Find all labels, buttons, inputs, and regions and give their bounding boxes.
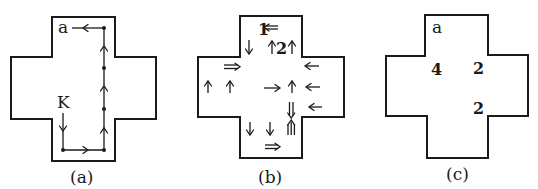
value-4: 4: [431, 60, 442, 79]
caption-c: (c): [446, 164, 469, 184]
node-dot: [61, 148, 65, 152]
cross-outline-a: [11, 17, 156, 161]
left-arrow: [305, 63, 319, 70]
down-arrow: [246, 40, 253, 54]
panel-a: K a (a): [11, 17, 156, 187]
triple-up-arrow: [288, 120, 295, 135]
value-2-bottom: 2: [473, 99, 484, 118]
down-arrow: [267, 122, 274, 135]
node-dot: [102, 26, 106, 30]
figure: K a (a) 1: [0, 0, 538, 189]
up-arrow: [289, 41, 296, 54]
up-arrow: [269, 41, 276, 54]
node-dot: [102, 66, 106, 70]
value-2-top: 2: [473, 59, 484, 78]
node-dot: [102, 107, 106, 111]
label-a: a: [58, 17, 68, 37]
num-2: 2: [276, 39, 287, 58]
cross-outline-c: [386, 15, 528, 158]
node-dot: [102, 148, 106, 152]
panel-b: 1 2: [198, 16, 344, 187]
up-arrow: [205, 81, 212, 93]
double-right-arrow: [224, 63, 240, 70]
double-down-arrow: [288, 102, 295, 118]
path-a: [60, 25, 108, 154]
up-arrow: [289, 81, 296, 93]
up-arrow: [227, 81, 234, 93]
panel-c: a 4 2 2 (c): [386, 15, 528, 184]
down-arrow: [247, 122, 254, 135]
left-arrow: [309, 104, 322, 111]
left-arrow: [306, 84, 320, 91]
right-arrow: [264, 85, 280, 92]
caption-b: (b): [258, 167, 282, 187]
label-k: K: [57, 92, 70, 112]
cross-outline-b: [198, 16, 344, 158]
double-right-arrow: [265, 143, 280, 150]
label-a-corner: a: [432, 17, 442, 37]
caption-a: (a): [70, 167, 93, 187]
